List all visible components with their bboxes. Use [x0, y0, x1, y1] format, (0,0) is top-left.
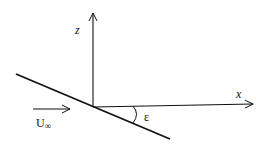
diagram-canvas: z x U∞ ε	[0, 0, 268, 150]
z-axis-label: z	[74, 23, 80, 37]
freestream-label-main: U	[36, 116, 45, 130]
x-axis-label: x	[235, 87, 242, 101]
x-axis	[93, 104, 253, 107]
freestream-label-sub: ∞	[45, 121, 51, 131]
angle-label: ε	[144, 110, 149, 124]
angle-arc	[133, 106, 137, 123]
freestream-label: U∞	[36, 116, 51, 131]
